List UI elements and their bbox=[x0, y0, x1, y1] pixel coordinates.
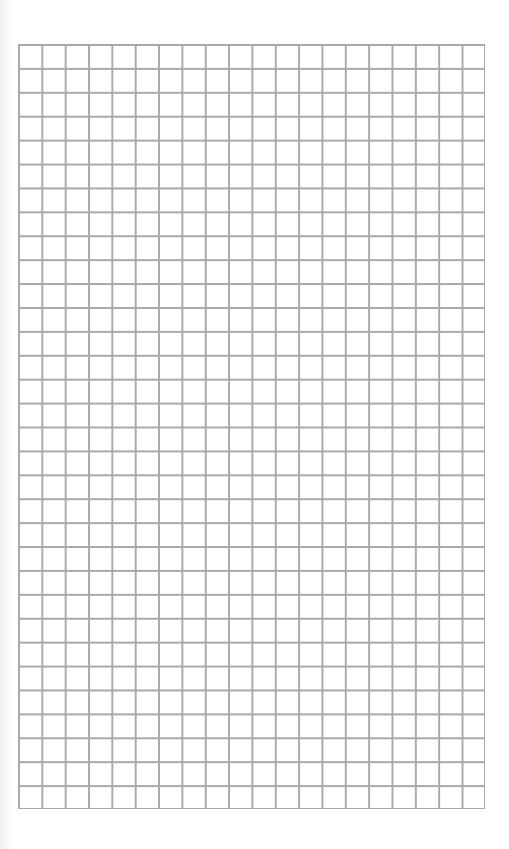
graph-paper-grid bbox=[18, 44, 485, 809]
page-edge-shadow bbox=[0, 0, 14, 849]
